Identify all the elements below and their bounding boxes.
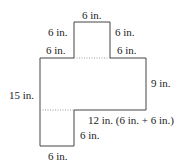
label-right-side-height: 9 in.: [151, 77, 171, 89]
label-leg-right-height: 6 in.: [80, 129, 100, 141]
label-bottom-step-width: 12 in. (6 in. + 6 in.): [88, 114, 174, 126]
label-bottom-width: 6 in.: [48, 150, 68, 162]
label-top-width: 6 in.: [82, 9, 102, 21]
shape-outline: [40, 22, 146, 146]
label-top-square-right-height: 6 in.: [115, 26, 135, 38]
label-left-side-height: 15 in.: [9, 89, 34, 101]
label-right-ledge-width: 6 in.: [117, 44, 137, 56]
label-left-ledge-width: 6 in.: [46, 44, 66, 56]
label-top-square-left-height: 6 in.: [48, 26, 68, 38]
